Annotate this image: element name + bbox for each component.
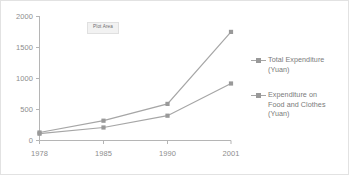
legend-label-cont: Food and Clothes: [268, 100, 349, 110]
legend-line-marker-icon: [251, 58, 266, 63]
x-tick-label: 1990: [151, 150, 185, 158]
legend-line-marker-icon: [251, 93, 266, 98]
legend-item-food-and-clothes[interactable]: Expenditure on Food and Clothes (Yuan): [251, 90, 349, 119]
legend-label-unit: (Yuan): [268, 65, 349, 75]
plot-area-tooltip: Plot Area: [87, 22, 119, 34]
chart-legend: Total Expenditure (Yuan) Expenditure on …: [251, 55, 349, 135]
legend-label: Total Expenditure: [268, 55, 349, 65]
legend-label: Expenditure on: [268, 90, 349, 100]
x-tick-label: 1978: [23, 150, 57, 158]
legend-label-unit: (Yuan): [268, 109, 349, 119]
line-chart-figure: 2000 1500 1000 500 0 1978 1985 1990 2001…: [0, 0, 349, 175]
x-tick-label: 2001: [214, 150, 248, 158]
legend-item-total-expenditure[interactable]: Total Expenditure (Yuan): [251, 55, 349, 74]
x-tick-label: 1985: [87, 150, 121, 158]
